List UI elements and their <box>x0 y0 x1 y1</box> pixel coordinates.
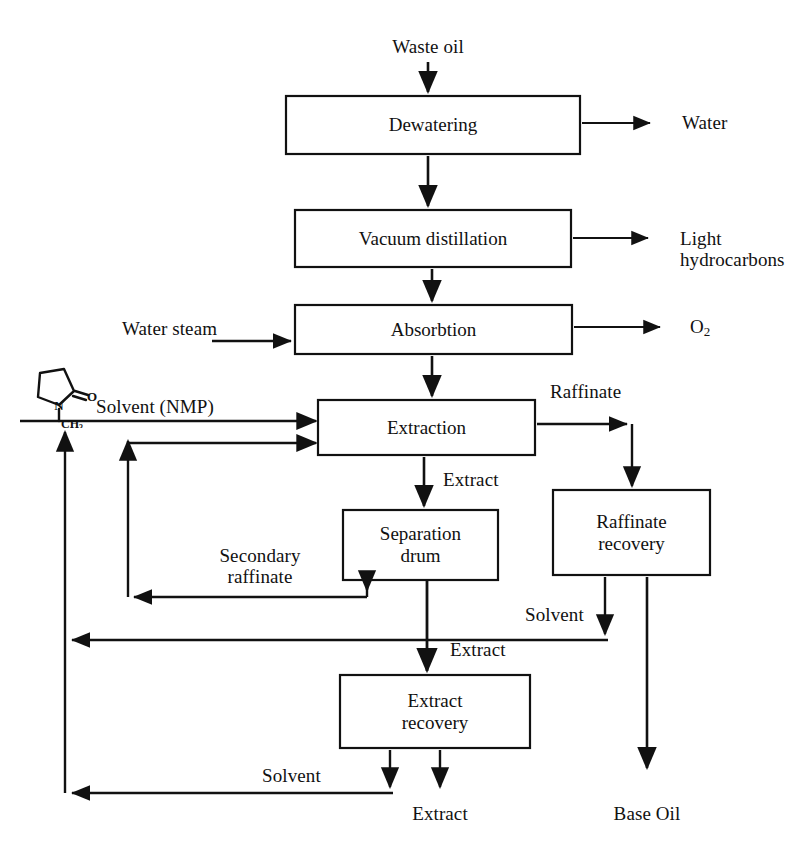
label-waste-oil: Waste oil <box>392 36 464 57</box>
box-separation-drum-label: Separation drum <box>380 523 461 567</box>
oxygen-subscript: 2 <box>704 324 711 339</box>
box-absorbtion[interactable]: Absorbtion <box>295 305 572 354</box>
label-extract-top: Extract <box>443 469 499 490</box>
process-flow-diagram: N O CH3 Dewatering Vacuum distillation A… <box>0 0 807 857</box>
box-extract-recovery-label: Extract recovery <box>402 690 468 734</box>
label-water: Water <box>682 112 727 133</box>
box-raffinate-recovery-label: Raffinate recovery <box>596 511 666 555</box>
box-extract-recovery[interactable]: Extract recovery <box>340 675 530 748</box>
box-dewatering[interactable]: Dewatering <box>286 96 580 154</box>
label-solvent-extract: Solvent <box>262 765 321 786</box>
label-base-oil: Base Oil <box>614 803 681 824</box>
label-extract-bottom: Extract <box>412 803 468 824</box>
label-light-hydrocarbons: Light hydrocarbons <box>680 228 785 270</box>
nmp-atom-n: N <box>54 398 64 413</box>
nmp-molecule: N O CH3 <box>18 358 102 428</box>
box-separation-drum[interactable]: Separation drum <box>343 510 498 580</box>
label-secondary-raffinate: Secondary raffinate <box>219 545 300 587</box>
box-vacuum-distillation-label: Vacuum distillation <box>359 228 507 250</box>
box-extraction[interactable]: Extraction <box>318 400 535 455</box>
box-raffinate-recovery[interactable]: Raffinate recovery <box>553 490 710 575</box>
nmp-atom-ch3: CH3 <box>61 417 83 428</box>
label-raffinate: Raffinate <box>550 381 621 402</box>
label-oxygen: O2 <box>690 316 710 342</box>
label-solvent-nmp: Solvent (NMP) <box>96 396 214 417</box>
box-vacuum-distillation[interactable]: Vacuum distillation <box>295 210 571 267</box>
box-dewatering-label: Dewatering <box>389 114 478 136</box>
box-extraction-label: Extraction <box>387 417 466 439</box>
label-water-steam: Water steam <box>122 318 217 339</box>
label-extract-mid: Extract <box>450 639 506 660</box>
box-absorbtion-label: Absorbtion <box>391 319 477 341</box>
label-solvent-raffinate: Solvent <box>525 604 584 625</box>
